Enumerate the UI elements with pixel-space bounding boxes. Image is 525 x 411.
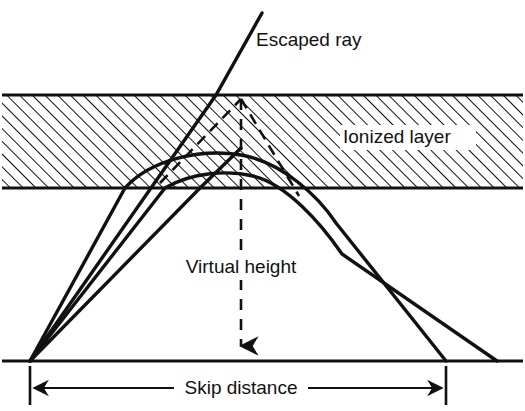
ionized-layer-label-group: Ionized layer <box>340 125 476 150</box>
ionized-layer-label: Ionized layer <box>343 126 451 147</box>
skip-distance-label-group: Skip distance <box>174 376 308 401</box>
diagram-canvas: Escaped ray Ionized layer Virtual height… <box>0 0 525 411</box>
virtual-height-label: Virtual height <box>186 256 297 277</box>
escaped-ray-label: Escaped ray <box>256 29 362 50</box>
virtual-height-label-group: Virtual height <box>172 255 310 280</box>
skip-distance-label: Skip distance <box>184 377 297 398</box>
ionospheric-propagation-diagram: Escaped ray Ionized layer Virtual height… <box>0 0 525 411</box>
escaped-ray-label-group: Escaped ray <box>256 29 362 50</box>
